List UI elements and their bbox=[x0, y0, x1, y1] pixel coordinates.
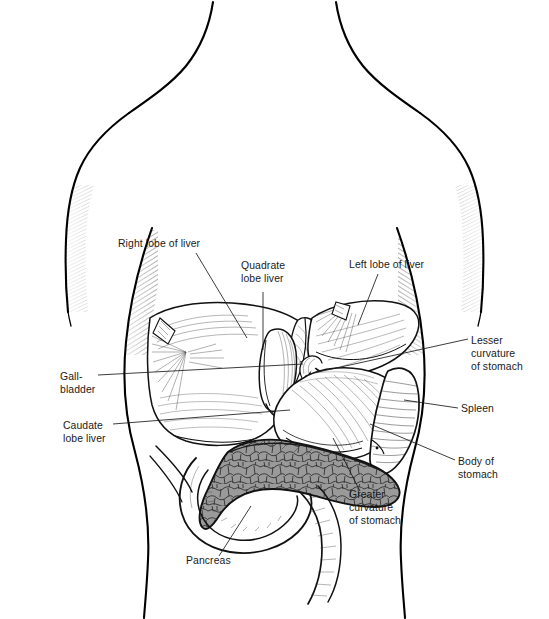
label-line: Quadrate bbox=[241, 260, 285, 271]
label-right-lobe-of-liver: Right lobe of liver bbox=[118, 238, 201, 249]
label-line: Right lobe of liver bbox=[118, 238, 201, 249]
label-line: bladder bbox=[60, 384, 96, 395]
abdominal-viscera-illustration: Right lobe of liverQuadratelobe liverLef… bbox=[0, 0, 549, 619]
anatomical-figure: Right lobe of liverQuadratelobe liverLef… bbox=[0, 0, 549, 619]
label-line: Spleen bbox=[461, 403, 494, 414]
label-line: Greater bbox=[349, 489, 385, 500]
label-line: Lesser bbox=[471, 335, 503, 346]
label-line: curvature bbox=[471, 348, 515, 359]
label-line: Gall- bbox=[60, 371, 82, 382]
label-line: Left lobe of liver bbox=[349, 259, 425, 270]
label-line: lobe liver bbox=[241, 273, 284, 284]
label-line: Body of bbox=[458, 456, 494, 467]
label-left-lobe-of-liver: Left lobe of liver bbox=[349, 259, 425, 270]
label-line: of stomach bbox=[471, 361, 523, 372]
label-line: stomach bbox=[458, 469, 498, 480]
label-line: of stomach bbox=[349, 515, 401, 526]
label-line: curvature bbox=[349, 502, 393, 513]
label-pancreas: Pancreas bbox=[186, 555, 231, 566]
label-line: Caudate bbox=[63, 420, 103, 431]
label-line: lobe liver bbox=[63, 433, 106, 444]
label-line: Pancreas bbox=[186, 555, 231, 566]
label-spleen: Spleen bbox=[461, 403, 494, 414]
